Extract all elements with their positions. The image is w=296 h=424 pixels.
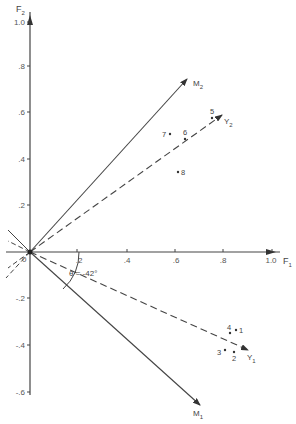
svg-text:5: 5 bbox=[210, 107, 214, 116]
x-tick-label: .8 bbox=[220, 256, 227, 265]
y-axis-label: F2 bbox=[16, 4, 26, 16]
data-points: 1 2 3 4 5 6 7 8 bbox=[162, 107, 243, 363]
point-6: 6 bbox=[183, 128, 187, 140]
y-tick-label: .4 bbox=[18, 155, 25, 164]
y-tick-label: -.4 bbox=[16, 341, 26, 350]
vector-y1-label: Y1 bbox=[247, 353, 256, 364]
svg-text:4: 4 bbox=[227, 323, 231, 332]
x-tick-label: .4 bbox=[124, 256, 131, 265]
y-tick-label: .2 bbox=[18, 201, 25, 210]
svg-text:8: 8 bbox=[181, 168, 185, 177]
y-tick-label: -.6 bbox=[16, 388, 26, 397]
point-3: 3 bbox=[217, 348, 226, 357]
y-tick-label: 1.0 bbox=[14, 18, 26, 27]
y-axis-arrow-icon bbox=[27, 15, 33, 25]
point-5: 5 bbox=[210, 107, 214, 119]
point-4: 4 bbox=[227, 323, 231, 334]
point-7: 7 bbox=[162, 130, 171, 139]
point-8: 8 bbox=[177, 168, 185, 177]
x-tick-label: .6 bbox=[173, 256, 180, 265]
x-tick-label: 1.0 bbox=[265, 256, 277, 265]
y-tick-label: .8 bbox=[18, 62, 25, 71]
svg-text:2: 2 bbox=[232, 354, 236, 363]
point-1: 1 bbox=[235, 326, 243, 335]
svg-text:3: 3 bbox=[217, 348, 221, 357]
origin-point bbox=[28, 250, 33, 255]
x-axis: .2 .4 .6 .8 1.0 0 F1 bbox=[6, 249, 293, 268]
svg-text:7: 7 bbox=[162, 130, 166, 139]
point-2: 2 bbox=[232, 351, 236, 363]
svg-text:6: 6 bbox=[183, 128, 187, 137]
angle-label: θ = -42° bbox=[69, 269, 97, 278]
factor-rotation-diagram: 1.0 .8 .6 .4 .2 -.2 -.4 -.6 F2 .2 .4 .6 … bbox=[0, 0, 296, 424]
x-axis-arrow-icon bbox=[266, 249, 276, 255]
vector-m2-label: M2 bbox=[193, 79, 204, 90]
y-tick-label: -.2 bbox=[16, 294, 26, 303]
x-axis-label: F1 bbox=[283, 256, 293, 268]
y-axis: 1.0 .8 .6 .4 .2 -.2 -.4 -.6 F2 bbox=[14, 4, 33, 397]
vector-y2: Y2 bbox=[8, 115, 233, 268]
svg-text:1: 1 bbox=[239, 326, 243, 335]
vector-y2-label: Y2 bbox=[224, 117, 233, 128]
y-tick-label: .6 bbox=[18, 108, 25, 117]
vector-m1-label: M1 bbox=[193, 409, 204, 420]
